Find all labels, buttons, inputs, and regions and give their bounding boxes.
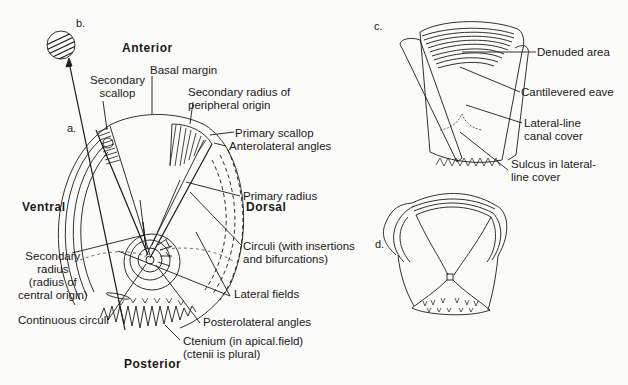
label-posterolateral-angles: Posterolateral angles [203,316,311,329]
label-primary-radius: Primary radius [243,190,317,203]
label-anterolateral-angles: Anterolateral angles [229,140,331,153]
label-ctenium: Ctenium (in apical.field) (ctenii is plu… [183,335,303,361]
label-circuli: Circuli (with insertions and bifurcation… [243,240,355,266]
label-cantilevered-eave: Cantilevered eave [521,86,614,99]
label-denuded-area: Denuded area [537,46,610,59]
label-sulcus: Sulcus in lateral- line cover [511,158,596,184]
orientation-posterior: Posterior [124,357,181,371]
label-primary-scallop: Primary scallop [235,127,314,140]
orientation-anterior: Anterior [122,41,173,55]
label-lateral-line-canal-cover: Lateral-line canal cover [524,117,583,143]
label-lateral-fields: Lateral fields [234,288,299,301]
fish-scale-diagram: b. a. c. d. Anterior Posterior Ventral D… [0,0,628,385]
panel-d-scale [383,193,506,314]
panel-label-d: d. [375,238,384,250]
panel-label-a: a. [67,122,76,134]
label-basal-margin: Basal margin [150,64,217,77]
panel-label-b: b. [76,17,85,29]
label-secondary-radius-central: Secondary radius (radius of central orig… [18,250,88,302]
label-secondary-radius-peripheral: Secondary radius of peripheral origin [188,86,290,112]
label-secondary-scallop: Secondary scallop [90,74,145,100]
panel-b-detail-circle [40,28,82,73]
panel-label-c: c. [374,20,383,32]
panel-a-leaders [72,76,242,340]
label-continuous-circuli: Continuous circuli [18,314,109,327]
panel-c-scale [400,22,536,170]
orientation-ventral: Ventral [22,200,66,214]
